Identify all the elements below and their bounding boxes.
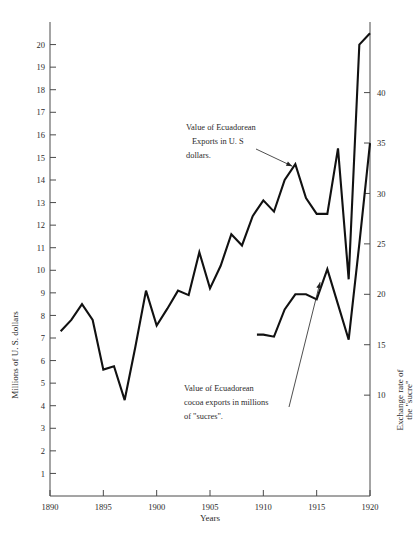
exports-annotation-arrowhead-icon: [286, 162, 292, 167]
y-tick-label-1: 1: [41, 469, 45, 479]
y-tick-label-8: 8: [41, 311, 45, 321]
y-tick-label-2: 2: [41, 446, 45, 456]
cocoa-annotation-line-3: of "sucres".: [184, 412, 223, 421]
exports-annotation-line-3: dollars.: [186, 151, 211, 160]
y2-tick-label-30: 30: [377, 189, 386, 199]
y-axis-right-ticks: 10152025303540: [364, 88, 386, 401]
y-axis-right-title-line2: the "sucre": [404, 380, 414, 420]
y-tick-label-5: 5: [41, 378, 45, 388]
y-tick-label-17: 17: [37, 107, 46, 117]
y2-tick-label-35: 35: [377, 138, 386, 148]
cocoa-annotation: Value of Ecuadorean cocoa exports in mil…: [184, 384, 268, 421]
y-axis-left-ticks: 1234567891011121314151617181920: [37, 40, 57, 479]
y-tick-label-14: 14: [37, 175, 46, 185]
exports-annotation: Value of Ecuadorean Exports in U. S doll…: [186, 123, 257, 160]
y-tick-label-3: 3: [41, 423, 45, 433]
exports-annotation-leader-icon: [256, 149, 292, 166]
cocoa-annotation-line-2: cocoa exports in millions: [184, 398, 268, 407]
exports-annotation-line-1: Value of Ecuadorean: [186, 123, 257, 132]
y-tick-label-6: 6: [41, 356, 45, 366]
y-tick-label-9: 9: [41, 288, 45, 298]
chart-figure: 1234567891011121314151617181920 10152025…: [0, 0, 420, 533]
y2-tick-label-40: 40: [377, 88, 386, 98]
y-tick-label-4: 4: [41, 401, 46, 411]
y-tick-label-11: 11: [37, 243, 45, 253]
series-line-exports: [61, 33, 370, 400]
cocoa-annotation-arrowhead-icon: [316, 282, 321, 288]
y2-tick-label-10: 10: [377, 390, 386, 400]
x-axis-ticks: 1890189519001905191019151920: [42, 490, 379, 512]
y-tick-label-7: 7: [41, 333, 45, 343]
cocoa-annotation-leader-icon: [289, 282, 320, 407]
exports-annotation-line-2: Exports in U. S: [192, 137, 244, 146]
y2-tick-label-15: 15: [377, 340, 386, 350]
x-axis-title: Years: [200, 513, 221, 523]
y-tick-label-16: 16: [37, 130, 46, 140]
axes-group: [50, 22, 370, 496]
y-tick-label-10: 10: [37, 265, 46, 275]
x-tick-label-1915: 1915: [308, 502, 325, 512]
y2-tick-label-25: 25: [377, 239, 386, 249]
y-tick-label-13: 13: [37, 198, 46, 208]
x-tick-label-1905: 1905: [202, 502, 219, 512]
x-tick-label-1910: 1910: [255, 502, 272, 512]
y2-tick-label-20: 20: [377, 289, 386, 299]
x-tick-label-1890: 1890: [42, 502, 59, 512]
x-tick-label-1900: 1900: [148, 502, 165, 512]
y-axis-left-title: Millions of U. S. dollars: [10, 311, 20, 399]
y-tick-label-12: 12: [37, 220, 46, 230]
x-tick-label-1895: 1895: [95, 502, 112, 512]
y-tick-label-15: 15: [37, 153, 46, 163]
cocoa-annotation-line-1: Value of Ecuadorean: [184, 384, 255, 393]
y-tick-label-19: 19: [37, 62, 46, 72]
x-tick-label-1920: 1920: [362, 502, 379, 512]
y-tick-label-18: 18: [37, 85, 46, 95]
chart-svg: 1234567891011121314151617181920 10152025…: [0, 0, 420, 533]
y-tick-label-20: 20: [37, 40, 46, 50]
